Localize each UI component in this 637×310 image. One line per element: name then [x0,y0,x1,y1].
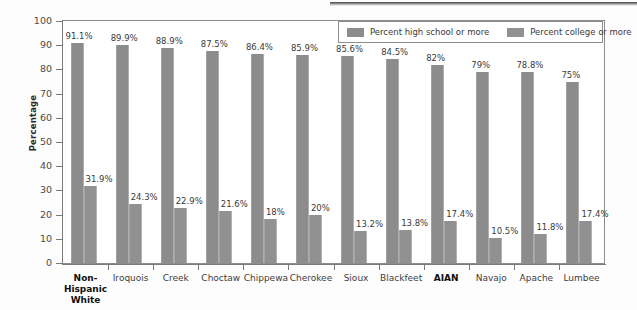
bar-high-school [206,51,219,263]
x-tick-mark [108,265,109,270]
x-tick-mark [243,265,244,270]
x-tick-mark [379,265,380,270]
bar-high-school [476,72,489,263]
bar-high-school [161,48,174,263]
legend-label-high-school: Percent high school or more [370,27,489,37]
bar-value-label-college: 17.4% [581,210,608,219]
x-tick-mark [469,265,470,270]
scan-edge-mask [0,0,637,2]
x-tick-mark [514,265,515,270]
bar-high-school [251,54,264,263]
bar-value-label-college: 13.2% [356,220,383,229]
bar-chart: Percentage 0102030405060708090100 91.1%3… [0,0,637,310]
bar-college [444,221,457,263]
x-tick-mark [559,265,560,270]
bar-high-school [116,45,129,263]
bar-value-label-college: 13.8% [401,219,428,228]
y-tick-label: 10 [0,234,52,244]
bar-college [264,219,277,263]
bar-value-label-high-school: 82% [426,54,445,63]
y-tick-label: 0 [0,258,52,268]
y-tick-label: 60 [0,113,52,123]
bar-value-label-high-school: 75% [561,71,580,80]
plot-area: 91.1%31.9%89.9%24.3%88.9%22.9%87.5%21.6%… [63,21,604,263]
x-tick-mark [334,265,335,270]
chart-legend: Percent high school or more Percent coll… [338,21,603,43]
bar-college [489,238,502,263]
bar-value-label-college: 24.3% [131,193,158,202]
y-tick-label: 90 [0,40,52,50]
bar-value-label-high-school: 91.1% [66,32,93,41]
bar-value-label-high-school: 79% [471,61,490,70]
bar-value-label-college: 31.9% [86,175,113,184]
x-tick-mark [153,265,154,270]
y-tick-label: 30 [0,185,52,195]
bar-value-label-college: 21.6% [221,200,248,209]
y-tick-label: 80 [0,64,52,74]
bar-high-school [71,43,84,263]
bar-college [309,215,322,263]
y-tick-label: 50 [0,137,52,147]
legend-label-college: Percent college or more [530,27,631,37]
bar-college [129,204,142,263]
bar-value-label-high-school: 88.9% [156,37,183,46]
bar-college [399,230,412,263]
bar-college [579,221,592,263]
bar-value-label-high-school: 84.5% [381,48,408,57]
bar-value-label-college: 17.4% [446,210,473,219]
legend-item-high-school: Percent high school or more [347,27,489,37]
bar-value-label-high-school: 87.5% [201,40,228,49]
bar-value-label-high-school: 86.4% [246,43,273,52]
bar-value-label-high-school: 85.9% [291,44,318,53]
bar-high-school [566,82,579,264]
legend-swatch-college [507,28,524,37]
bar-high-school [341,56,354,263]
bar-value-label-college: 22.9% [176,197,203,206]
y-tick-label: 40 [0,161,52,171]
bar-college [174,208,187,263]
x-tick-mark [288,265,289,270]
bar-college [219,211,232,263]
bar-value-label-high-school: 85.6% [336,45,363,54]
x-tick-mark [198,265,199,270]
bar-high-school [386,59,399,263]
bar-value-label-college: 18% [266,208,285,217]
bar-value-label-high-school: 89.9% [111,34,138,43]
bar-value-label-college: 11.8% [536,223,563,232]
legend-item-college: Percent college or more [507,27,631,37]
x-tick-mark [424,265,425,270]
bar-high-school [521,72,534,263]
bar-value-label-college: 10.5% [491,227,518,236]
y-tick-label: 20 [0,210,52,220]
legend-swatch-high-school [347,28,364,37]
bar-college [354,231,367,263]
y-tick-label: 70 [0,89,52,99]
bar-college [84,186,97,263]
x-category-label: Lumbee [555,273,608,284]
bar-value-label-college: 20% [311,204,330,213]
bar-high-school [296,55,309,263]
y-tick-label: 100 [0,16,52,26]
bar-value-label-high-school: 78.8% [516,61,543,70]
bar-high-school [431,65,444,263]
bar-college [534,234,547,263]
